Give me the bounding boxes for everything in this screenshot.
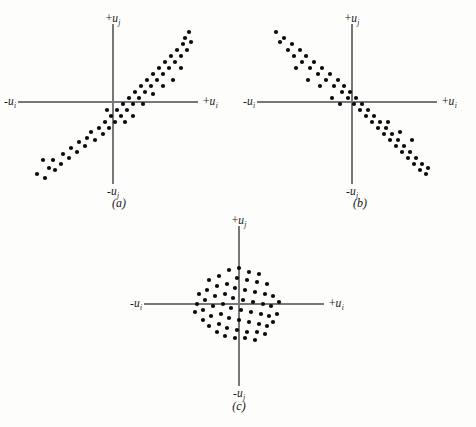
data-point bbox=[107, 126, 111, 130]
data-point bbox=[221, 302, 225, 306]
data-point bbox=[201, 308, 205, 312]
data-point bbox=[304, 54, 308, 58]
data-point bbox=[338, 102, 342, 106]
data-point bbox=[348, 90, 352, 94]
data-point bbox=[223, 292, 227, 296]
data-point bbox=[207, 278, 211, 282]
data-point bbox=[360, 102, 364, 106]
axis-label-negative-horizontal: -ui bbox=[4, 96, 16, 108]
data-point bbox=[320, 66, 324, 70]
data-point bbox=[103, 120, 107, 124]
data-point bbox=[175, 48, 179, 52]
data-point bbox=[101, 132, 105, 136]
data-point bbox=[217, 274, 221, 278]
data-point bbox=[215, 284, 219, 288]
data-point bbox=[271, 294, 275, 298]
data-point bbox=[53, 168, 57, 172]
data-point bbox=[414, 156, 418, 160]
data-point bbox=[239, 308, 243, 312]
data-point bbox=[370, 120, 374, 124]
data-point bbox=[275, 312, 279, 316]
data-point bbox=[426, 166, 430, 170]
data-point bbox=[181, 42, 185, 46]
data-point bbox=[51, 158, 55, 162]
data-point bbox=[167, 66, 171, 70]
data-point bbox=[179, 66, 183, 70]
data-point bbox=[243, 288, 247, 292]
data-point bbox=[269, 304, 273, 308]
data-point bbox=[67, 156, 71, 160]
data-point bbox=[312, 60, 316, 64]
data-point bbox=[294, 66, 298, 70]
data-point bbox=[292, 54, 296, 58]
data-point bbox=[340, 90, 344, 94]
data-point bbox=[328, 72, 332, 76]
scatter-panel-c: +uj-uj-ui+ui bbox=[125, 210, 355, 395]
data-point bbox=[109, 114, 113, 118]
data-point bbox=[193, 310, 197, 314]
panel-caption-b: (b) bbox=[353, 196, 367, 211]
data-point bbox=[179, 54, 183, 58]
data-point bbox=[318, 84, 322, 88]
data-point bbox=[207, 324, 211, 328]
data-point bbox=[69, 146, 73, 150]
data-point bbox=[237, 266, 241, 270]
data-point bbox=[255, 280, 259, 284]
data-point bbox=[330, 96, 334, 100]
data-point bbox=[41, 158, 45, 162]
data-point bbox=[229, 306, 233, 310]
data-point bbox=[324, 78, 328, 82]
data-point bbox=[217, 322, 221, 326]
data-point bbox=[336, 78, 340, 82]
data-point bbox=[412, 162, 416, 166]
data-point bbox=[354, 96, 358, 100]
data-point bbox=[241, 298, 245, 302]
data-point bbox=[61, 152, 65, 156]
data-point bbox=[263, 292, 267, 296]
data-point bbox=[189, 40, 193, 44]
data-point-group bbox=[35, 30, 193, 180]
data-point bbox=[93, 138, 97, 142]
data-point bbox=[376, 126, 380, 130]
plot-canvas-c bbox=[125, 210, 355, 395]
data-point bbox=[201, 318, 205, 322]
data-point bbox=[143, 90, 147, 94]
data-point bbox=[235, 276, 239, 280]
data-point bbox=[227, 316, 231, 320]
data-point bbox=[265, 282, 269, 286]
data-point bbox=[267, 314, 271, 318]
data-point bbox=[43, 176, 47, 180]
data-point bbox=[141, 102, 145, 106]
data-point bbox=[384, 126, 388, 130]
data-point bbox=[298, 48, 302, 52]
data-point bbox=[151, 92, 155, 96]
data-point bbox=[157, 66, 161, 70]
data-point bbox=[225, 326, 229, 330]
axis-label-negative-vertical: -uj bbox=[233, 388, 245, 400]
data-point bbox=[121, 102, 125, 106]
data-point bbox=[261, 302, 265, 306]
axis-label-negative-horizontal: -ui bbox=[130, 298, 142, 310]
data-point bbox=[233, 336, 237, 340]
data-point bbox=[410, 138, 414, 142]
data-point bbox=[47, 166, 51, 170]
data-point bbox=[406, 156, 410, 160]
data-point bbox=[346, 96, 350, 100]
data-point bbox=[139, 84, 143, 88]
data-point bbox=[249, 310, 253, 314]
data-point bbox=[163, 60, 167, 64]
data-point bbox=[155, 78, 159, 82]
data-point bbox=[257, 272, 261, 276]
data-point bbox=[231, 296, 235, 300]
data-point bbox=[133, 90, 137, 94]
data-point bbox=[151, 72, 155, 76]
data-point bbox=[245, 330, 249, 334]
data-point bbox=[342, 84, 346, 88]
data-point bbox=[233, 286, 237, 290]
data-point bbox=[308, 66, 312, 70]
axis-label-positive-vertical: +uj bbox=[345, 13, 360, 25]
axis-label-positive-vertical: +uj bbox=[106, 13, 121, 25]
axis-label-positive-vertical: +uj bbox=[232, 215, 247, 227]
data-point bbox=[123, 120, 127, 124]
data-point bbox=[290, 42, 294, 46]
